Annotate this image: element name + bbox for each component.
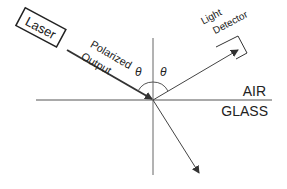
theta-incident: θ bbox=[135, 65, 142, 79]
glass-label: GLASS bbox=[221, 103, 268, 119]
laser-box: Laser bbox=[16, 8, 66, 47]
transmitted-beam bbox=[153, 100, 199, 173]
detector-bracket bbox=[216, 36, 247, 59]
air-label: AIR bbox=[243, 83, 266, 99]
theta-reflected: θ bbox=[160, 65, 167, 79]
reflection-diagram: Laser Polarized Output θ θ Light Detecto… bbox=[0, 0, 287, 189]
